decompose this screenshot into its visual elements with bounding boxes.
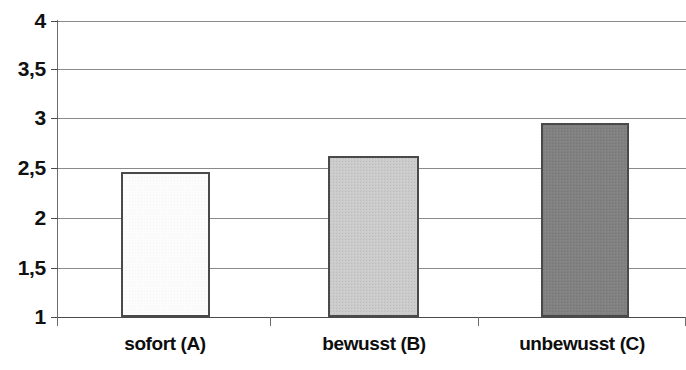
bar-unbewusst-c <box>541 123 629 317</box>
bar-texture-a <box>123 174 208 315</box>
bar-texture-b <box>330 158 417 315</box>
y-tick-3 <box>51 118 58 119</box>
y-axis-label-2: 2 <box>0 207 46 228</box>
y-tick-4 <box>51 21 58 22</box>
plot-area: 4 3,5 3 2,5 2 1,5 1 <box>0 0 686 370</box>
gridline-1-baseline <box>57 317 686 318</box>
y-axis-label-4: 4 <box>0 10 46 31</box>
bar-sofort-a <box>121 172 210 317</box>
y-axis-label-3: 3 <box>0 107 46 128</box>
bar-bewusst-b <box>328 156 419 317</box>
y-tick-1-5 <box>51 268 58 269</box>
bar-texture-c <box>543 125 627 315</box>
y-tick-2 <box>51 218 58 219</box>
y-axis-label-2-5: 2,5 <box>0 157 46 178</box>
gridline-3 <box>57 118 686 119</box>
y-axis-label-1: 1 <box>0 306 46 327</box>
x-tick-2 <box>478 317 479 326</box>
bar-chart-figure: 4 3,5 3 2,5 2 1,5 1 <box>0 0 686 370</box>
y-axis-line <box>57 20 58 318</box>
x-tick-1 <box>270 317 271 326</box>
y-tick-2-5 <box>51 168 58 169</box>
x-axis-label-bewusst-b: bewusst (B) <box>270 334 478 355</box>
gridline-3-5 <box>57 69 686 70</box>
gridline-4 <box>57 21 686 22</box>
y-tick-3-5 <box>51 69 58 70</box>
x-axis-label-unbewusst-c: unbewusst (C) <box>478 334 686 355</box>
x-axis-label-sofort-a: sofort (A) <box>61 334 269 355</box>
y-axis-label-3-5: 3,5 <box>0 58 46 79</box>
y-axis-label-1-5: 1,5 <box>0 257 46 278</box>
x-tick-left <box>57 317 58 326</box>
